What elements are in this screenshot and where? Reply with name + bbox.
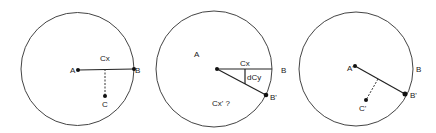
label-b: B [416, 65, 421, 74]
point-b-prime [403, 92, 408, 97]
point-c-prime [364, 98, 368, 102]
point-c [103, 94, 107, 98]
label-cx: Cx [240, 59, 250, 68]
label-a-prime: A' [347, 64, 354, 73]
segment-a-prime-b-prime [355, 66, 405, 94]
label-cx: Cx [100, 54, 110, 63]
label-c: C [102, 100, 108, 109]
point-a [76, 68, 80, 72]
label-dcy: dCy [247, 73, 261, 82]
segment-ab [78, 69, 134, 70]
point-b-prime [264, 93, 269, 98]
label-a: A [70, 66, 76, 75]
diagram-2: A B B' Cx dCy Cx' ? [156, 11, 286, 127]
label-b: B [135, 66, 140, 75]
diagram-1: A B C Cx [21, 13, 140, 126]
label-b-prime: B' [410, 91, 417, 100]
circle-3 [299, 12, 413, 126]
label-c-prime: C' [359, 104, 367, 113]
label-cx-prime: Cx' ? [212, 99, 231, 108]
dashed-projection-c-prime [366, 79, 378, 100]
label-b-prime: B' [270, 93, 277, 102]
label-a: A [194, 50, 200, 59]
point-a [215, 67, 219, 71]
diagram-3: A' B B' C' [299, 12, 421, 126]
label-b: B [281, 66, 286, 75]
diagram-canvas: A B C Cx A B B' Cx dCy Cx' ? A' B B' C' [0, 0, 436, 133]
